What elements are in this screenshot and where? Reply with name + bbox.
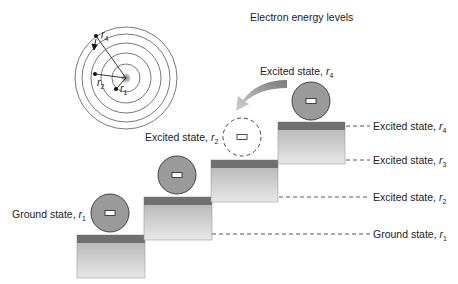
level-label-r3: Excited state, r3 — [373, 154, 446, 168]
label-r1: r1 — [120, 82, 128, 96]
level-label-r1: Ground state, r1 — [373, 228, 447, 242]
step-block-2 — [144, 197, 212, 240]
electron-ball-ground — [91, 194, 129, 232]
step-block-1 — [77, 235, 145, 278]
label-excited-r4: Excited state, r4 — [260, 65, 333, 79]
electron-ball-excited-r4 — [292, 82, 330, 120]
level-label-r4: Excited state, r4 — [373, 120, 446, 134]
energy-level-diagram: Electron energy levels r4 r2 r1 — [0, 0, 458, 284]
label-excited-r2: Excited state, r2 — [145, 131, 218, 145]
transition-arrow-icon — [236, 80, 287, 111]
label-ground-state: Ground state, r1 — [12, 208, 86, 222]
step-block-3 — [211, 160, 278, 202]
electron-ball-dashed-r2 — [223, 118, 261, 156]
electron-ball-level2 — [158, 156, 196, 194]
arrow-down-icon — [92, 39, 97, 50]
step-block-4 — [278, 122, 345, 164]
diagram-title: Electron energy levels — [250, 11, 353, 23]
level-label-r2: Excited state, r2 — [373, 191, 446, 205]
